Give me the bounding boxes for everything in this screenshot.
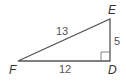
side-label-de: 5 bbox=[114, 35, 120, 47]
triangle-diagram: E F D 13 12 5 bbox=[0, 0, 126, 83]
right-angle-marker bbox=[101, 52, 110, 61]
vertex-label-f: F bbox=[9, 63, 17, 77]
vertex-label-d: D bbox=[108, 63, 117, 77]
side-label-fd: 12 bbox=[59, 63, 71, 75]
triangle-svg: E F D 13 12 5 bbox=[0, 0, 126, 83]
side-label-fe: 13 bbox=[56, 25, 68, 37]
vertex-label-e: E bbox=[108, 3, 117, 17]
